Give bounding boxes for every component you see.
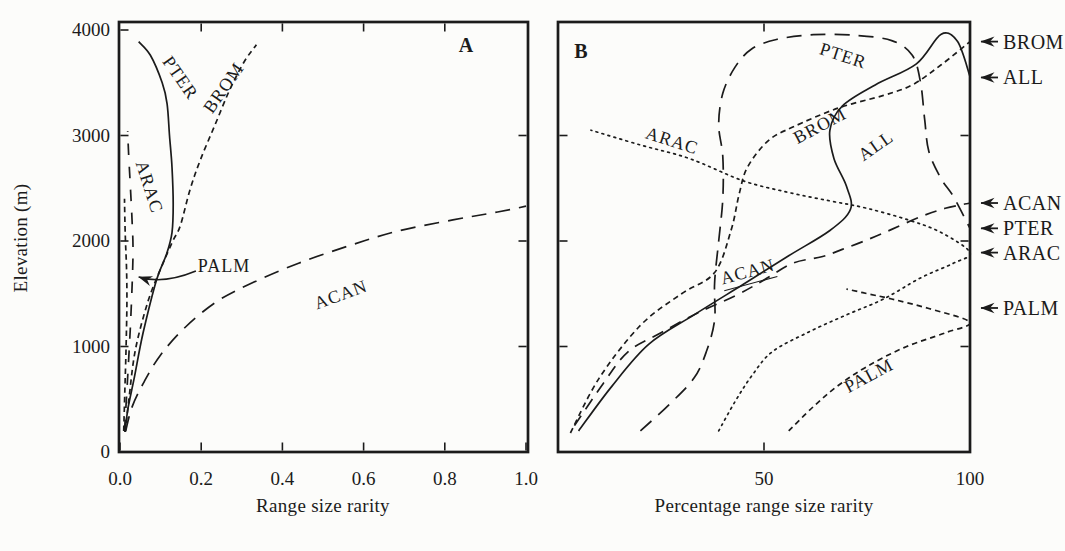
y-tick-label-0: 0 bbox=[101, 441, 111, 463]
x-tick-label-b-50: 50 bbox=[755, 468, 774, 490]
curve-label-palm-a: PALM bbox=[198, 256, 250, 277]
panel-b bbox=[558, 22, 998, 452]
x-tick-label-a-0.4: 0.4 bbox=[271, 468, 295, 490]
curve-acan-b bbox=[575, 203, 971, 426]
panel-a-letter: A bbox=[459, 34, 474, 57]
curve-brom-b bbox=[570, 42, 970, 433]
y-tick-label-2000: 2000 bbox=[72, 230, 110, 252]
x-tick-label-a-0.6: 0.6 bbox=[352, 468, 376, 490]
curve-palm-a bbox=[124, 199, 127, 431]
y-tick-label-1000: 1000 bbox=[72, 336, 110, 358]
curve-acan-a bbox=[126, 206, 526, 431]
curve-pter-b bbox=[640, 34, 970, 431]
x-tick-label-a-0.0: 0.0 bbox=[108, 468, 132, 490]
x-tick-label-b-100: 100 bbox=[956, 468, 985, 490]
y-tick-label-4000: 4000 bbox=[72, 19, 110, 41]
curve-brom-a bbox=[125, 45, 256, 432]
x-tick-label-a-0.8: 0.8 bbox=[433, 468, 457, 490]
x-tick-label-a-0.2: 0.2 bbox=[189, 468, 213, 490]
edge-arrow-label-all: ALL bbox=[1003, 66, 1043, 89]
edge-arrow-label-acan: ACAN bbox=[1003, 192, 1062, 215]
edge-arrow-label-pter: PTER bbox=[1003, 217, 1054, 240]
x-axis-title-panel-a: Range size rarity bbox=[256, 495, 390, 517]
curve-arac-b bbox=[591, 130, 970, 431]
x-axis-title-panel-b: Percentage range size rarity bbox=[655, 495, 874, 517]
figure-page: Elevation (m) Range size rarity Percenta… bbox=[0, 0, 1065, 551]
edge-arrow-label-brom: BROM bbox=[1003, 31, 1064, 54]
curve-all-b bbox=[579, 33, 970, 431]
panel-b-letter: B bbox=[574, 40, 588, 63]
y-axis-title: Elevation (m) bbox=[10, 184, 32, 293]
palm-callout-arrow bbox=[139, 271, 196, 280]
x-tick-label-a-1.0: 1.0 bbox=[514, 468, 538, 490]
edge-arrow-label-arac: ARAC bbox=[1003, 242, 1061, 265]
edge-arrow-label-palm: PALM bbox=[1003, 297, 1059, 320]
y-tick-label-3000: 3000 bbox=[72, 125, 110, 147]
